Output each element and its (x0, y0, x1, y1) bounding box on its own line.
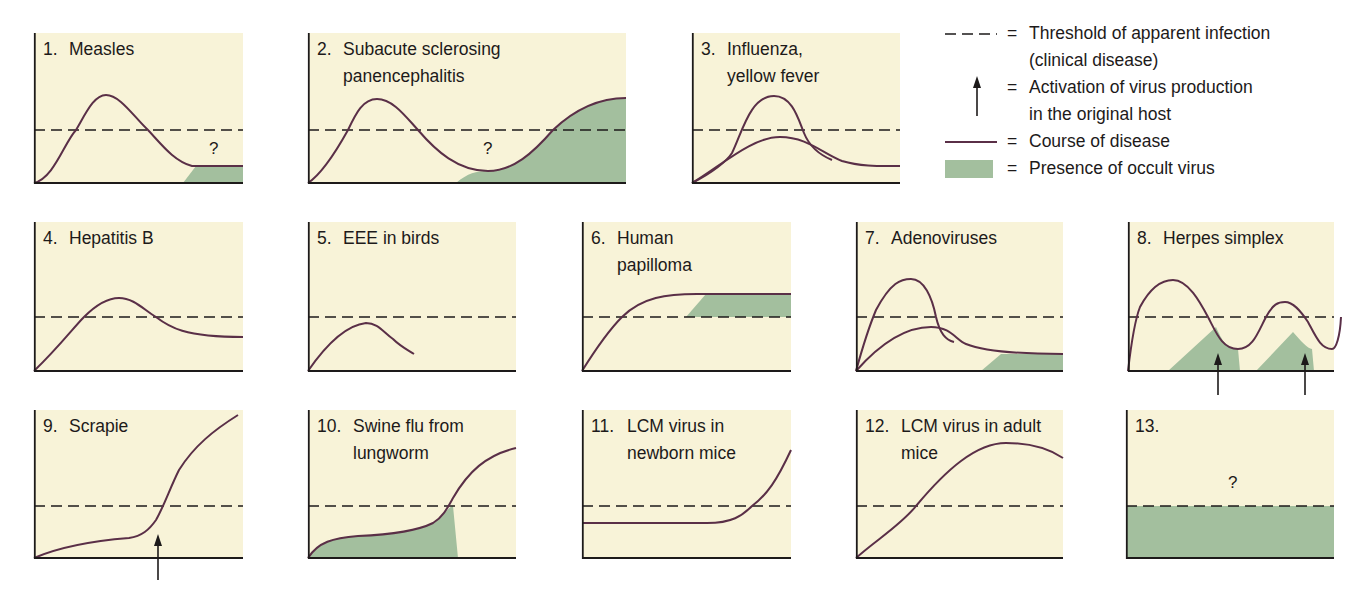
panel-title-line: LCM virus in adult (901, 416, 1041, 436)
panel-title-line: lungworm (317, 440, 464, 467)
panel-title-line: newborn mice (591, 440, 736, 467)
panel-title: 1.Measles (43, 36, 134, 63)
panel-number: 6. (591, 225, 617, 252)
occult-virus-area (183, 166, 243, 183)
panel-1: 1.Measles? (34, 33, 243, 183)
panel-title: 8.Herpes simplex (1137, 225, 1284, 252)
panel-number: 9. (43, 413, 69, 440)
panel-title: 5.EEE in birds (317, 225, 439, 252)
legend-item-course: = Course of disease (945, 128, 1345, 155)
panel-number: 5. (317, 225, 343, 252)
occult-virus-area (1126, 506, 1334, 558)
panel-9: 9.Scrapie (34, 410, 243, 558)
legend-item-threshold-cont: (clinical disease) (945, 47, 1345, 74)
panel-title: 7.Adenoviruses (865, 225, 997, 252)
occult-virus-area (1168, 327, 1240, 371)
legend-label: Activation of virus production (1029, 74, 1253, 101)
panel-title-line: yellow fever (701, 63, 819, 90)
panel-number: 2. (317, 36, 343, 63)
occult-virus-area (308, 506, 458, 558)
disease-course-curve (308, 323, 414, 371)
legend-label: Course of disease (1029, 128, 1170, 155)
panel-title-line: Swine flu from (353, 416, 464, 436)
disease-course-curve (856, 279, 954, 371)
panel-number: 13. (1135, 413, 1171, 440)
panel-2: 2.Subacute sclerosingpanencephalitis? (308, 33, 626, 183)
panel-13: 13.? (1126, 410, 1334, 558)
panel-8: 8.Herpes simplex (1128, 222, 1334, 371)
legend-equals: = (1007, 155, 1017, 182)
panel-title: 2.Subacute sclerosingpanencephalitis (317, 36, 501, 90)
panel-number: 11. (591, 413, 627, 440)
panel-title-line: Herpes simplex (1163, 228, 1284, 248)
panel-title-line: mice (865, 440, 1041, 467)
unknown-marker: ? (209, 139, 218, 159)
panel-10: 10.Swine flu fromlungworm (308, 410, 516, 558)
legend-item-occult: = Presence of occult virus (945, 155, 1345, 182)
panel-number: 10. (317, 413, 353, 440)
panel-title-line: panencephalitis (317, 63, 501, 90)
panel-4: 4.Hepatitis B (34, 222, 243, 371)
panel-title-line: EEE in birds (343, 228, 439, 248)
panel-title-line: papilloma (591, 252, 692, 279)
panel-number: 8. (1137, 225, 1163, 252)
panel-3: 3.Influenza,yellow fever (692, 33, 900, 183)
panel-title: 10.Swine flu fromlungworm (317, 413, 464, 467)
panel-number: 12. (865, 413, 901, 440)
green-box-icon (945, 155, 997, 182)
panel-5: 5.EEE in birds (308, 222, 516, 371)
unknown-marker: ? (483, 139, 492, 159)
panel-number: 7. (865, 225, 891, 252)
panel-title: 13. (1135, 413, 1171, 440)
legend-equals: = (1007, 128, 1017, 155)
panel-number: 1. (43, 36, 69, 63)
panel-title: 12.LCM virus in adultmice (865, 413, 1041, 467)
panel-title-line: Hepatitis B (69, 228, 154, 248)
panel-12: 12.LCM virus in adultmice (856, 410, 1063, 558)
panel-number: 3. (701, 36, 727, 63)
legend-label: in the original host (1029, 101, 1171, 128)
panel-6: 6.Humanpapilloma (582, 222, 791, 371)
panel-title-line: Measles (69, 39, 134, 59)
dashed-line-icon (945, 20, 997, 47)
panel-title-line: Subacute sclerosing (343, 39, 501, 59)
panel-7: 7.Adenoviruses (856, 222, 1063, 371)
legend-label: Presence of occult virus (1029, 155, 1215, 182)
panel-title-line: Influenza, (727, 39, 803, 59)
legend-item-activation-cont: in the original host (945, 101, 1345, 128)
legend-item-threshold: = Threshold of apparent infection (945, 20, 1345, 47)
occult-virus-area (981, 354, 1063, 371)
panel-title-line: Adenoviruses (891, 228, 997, 248)
legend-equals: = (1007, 74, 1017, 101)
unknown-marker: ? (1228, 473, 1237, 493)
disease-course-curve (692, 137, 900, 183)
legend-label: (clinical disease) (1029, 47, 1158, 74)
legend-equals: = (1007, 20, 1017, 47)
panel-title-line: LCM virus in (627, 416, 724, 436)
panel-title: 4.Hepatitis B (43, 225, 154, 252)
activation-arrow-icon (154, 534, 162, 580)
panel-title: 11.LCM virus innewborn mice (591, 413, 736, 467)
legend: = Threshold of apparent infection (clini… (945, 20, 1345, 182)
panel-title-line: Scrapie (69, 416, 128, 436)
occult-virus-area (686, 294, 791, 317)
legend-label: Threshold of apparent infection (1029, 20, 1270, 47)
disease-course-curve (34, 298, 243, 371)
panel-title: 9.Scrapie (43, 413, 128, 440)
panel-title: 3.Influenza,yellow fever (701, 36, 819, 90)
panel-title-line: Human (617, 228, 673, 248)
legend-item-activation: = Activation of virus production (945, 74, 1345, 101)
panel-number: 4. (43, 225, 69, 252)
panel-title: 6.Humanpapilloma (591, 225, 692, 279)
panel-11: 11.LCM virus innewborn mice (582, 410, 791, 558)
purple-line-icon (945, 128, 997, 155)
